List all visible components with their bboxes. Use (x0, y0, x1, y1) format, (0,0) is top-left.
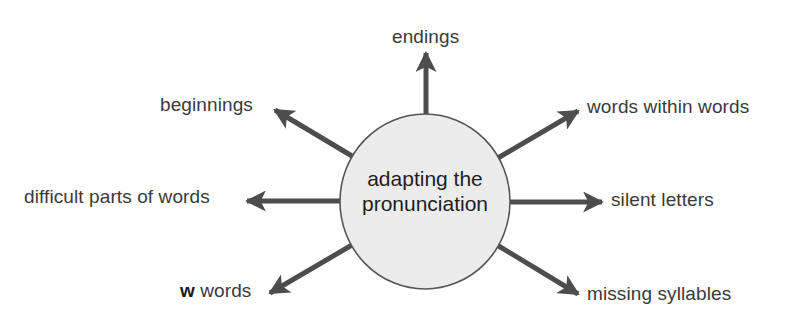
label-difficult-parts: difficult parts of words (24, 187, 210, 206)
center-label-line2: pronunciation (340, 191, 510, 216)
label-words-within-words: words within words (587, 97, 749, 116)
arrow-beginnings (275, 110, 352, 156)
label-w-bold: w (180, 280, 195, 301)
label-w-words: w words (180, 281, 251, 300)
center-label: adapting the pronunciation (340, 166, 510, 216)
arrow-words-within-words (498, 111, 578, 158)
arrow-w-words (270, 245, 352, 293)
mind-map-diagram (0, 0, 791, 328)
label-endings: endings (392, 27, 459, 46)
label-w-words-text: words (195, 280, 252, 301)
center-label-line1: adapting the (340, 166, 510, 191)
label-missing-syllables: missing syllables (587, 284, 731, 303)
arrow-missing-syllables (497, 245, 578, 294)
label-silent-letters: silent letters (611, 190, 714, 209)
label-beginnings: beginnings (160, 95, 253, 114)
